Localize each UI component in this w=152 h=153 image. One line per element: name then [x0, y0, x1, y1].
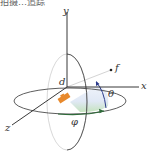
phi-arrowhead [99, 109, 104, 113]
y-axis-label: y [63, 6, 69, 16]
theta-label: θ [108, 89, 114, 99]
ray-to-f [67, 70, 111, 87]
z-axis [12, 87, 67, 125]
phi-label: φ [71, 117, 78, 127]
point-f [110, 69, 113, 72]
z-axis-label: z [5, 123, 10, 133]
point-f-label: f [115, 63, 119, 73]
cropped-caption: 拍摄…追踪 [0, 0, 45, 8]
x-axis-label: x [141, 81, 147, 91]
distance-label: d [59, 77, 65, 87]
diagram-graphics [0, 0, 152, 153]
spherical-coordinate-diagram: 拍摄…追踪 [0, 0, 152, 153]
